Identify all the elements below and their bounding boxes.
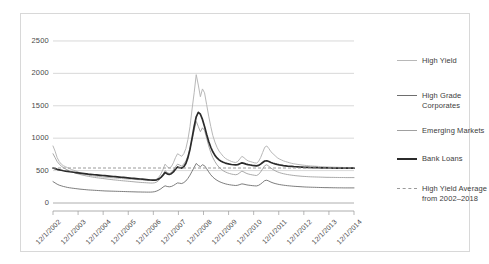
y-tick-label: 2000 <box>15 68 49 77</box>
legend-item[interactable]: High Yield <box>397 56 457 66</box>
chart-figure: 05001000150020002500 12/1/200212/1/20031… <box>0 0 489 264</box>
legend-item[interactable]: High Grade Corporates <box>397 91 461 110</box>
chart-frame: 05001000150020002500 12/1/200212/1/20031… <box>20 13 470 252</box>
legend-item[interactable]: High Yield Average from 2002–2018 <box>397 184 487 203</box>
legend-item-label: High Yield <box>422 56 457 66</box>
y-tick-label: 500 <box>15 166 49 175</box>
series-line <box>53 112 354 180</box>
y-tick-label: 1000 <box>15 133 49 142</box>
legend-swatch-icon <box>397 184 417 194</box>
legend-item[interactable]: Bank Loans <box>397 154 463 164</box>
y-tick-label: 2500 <box>15 36 49 45</box>
series-line <box>53 75 354 181</box>
legend-item-label: Bank Loans <box>422 154 463 164</box>
series-lines <box>53 75 354 192</box>
legend-item-label: High Yield Average from 2002–2018 <box>422 184 487 203</box>
y-tick-label: 0 <box>15 198 49 207</box>
series-line <box>53 121 354 183</box>
axis-lines <box>53 211 354 215</box>
legend-swatch-icon <box>397 154 417 164</box>
legend-swatch-icon <box>397 91 417 101</box>
y-tick-label: 1500 <box>15 101 49 110</box>
legend-item-label: Emerging Markets <box>422 126 484 136</box>
legend-swatch-icon <box>397 56 417 66</box>
legend-item-label: High Grade Corporates <box>422 91 461 110</box>
legend-item[interactable]: Emerging Markets <box>397 126 484 136</box>
legend-swatch-icon <box>397 126 417 136</box>
